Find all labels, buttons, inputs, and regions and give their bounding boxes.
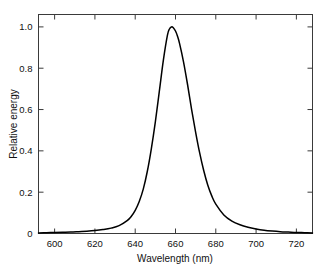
y-axis-ticks-left	[39, 27, 44, 234]
x-tick-label: 700	[248, 238, 264, 249]
x-tick-label: 660	[168, 238, 184, 249]
y-tick-label: 0.2	[19, 187, 32, 198]
x-tick-label: 600	[47, 238, 63, 249]
y-tick-label: 0	[27, 228, 32, 239]
y-axis-ticks-right	[308, 27, 313, 234]
x-tick-label: 640	[127, 238, 143, 249]
y-tick-label: 0.4	[19, 145, 32, 156]
spectrum-curve	[39, 27, 313, 233]
y-tick-label: 1.0	[19, 21, 32, 32]
y-axis-tick-labels: 00.20.40.60.81.0	[19, 21, 32, 239]
figure-container: 600620640660680700720 00.20.40.60.81.0 W…	[0, 0, 329, 271]
x-axis-tick-labels: 600620640660680700720	[47, 238, 305, 249]
x-tick-label: 680	[208, 238, 224, 249]
x-tick-label: 720	[288, 238, 304, 249]
y-axis-title: Relative energy	[8, 89, 19, 158]
y-tick-label: 0.6	[19, 104, 32, 115]
x-axis-ticks-top	[55, 15, 297, 20]
x-tick-label: 620	[87, 238, 103, 249]
x-axis-title: Wavelength (nm)	[137, 253, 213, 264]
y-tick-label: 0.8	[19, 63, 32, 74]
spectrum-chart: 600620640660680700720 00.20.40.60.81.0 W…	[0, 0, 329, 271]
plot-frame	[39, 15, 313, 234]
